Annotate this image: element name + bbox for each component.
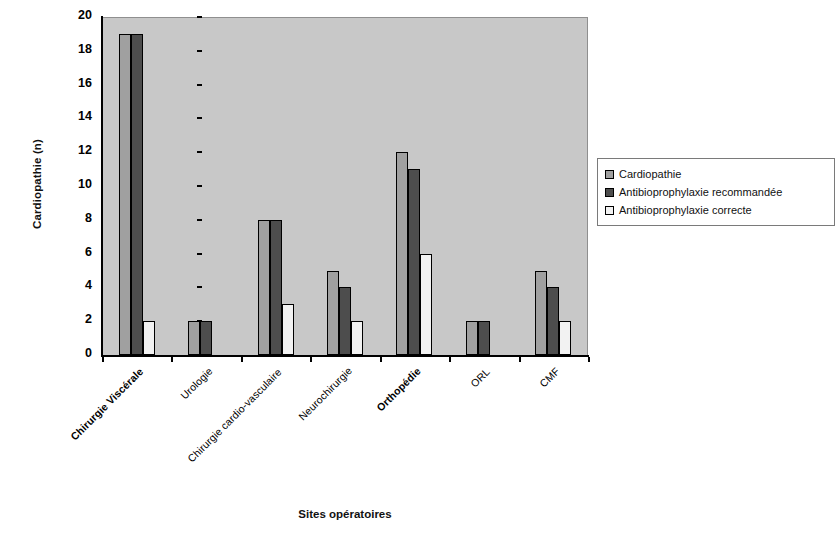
bar [200,321,212,355]
bar [535,271,547,356]
bar [143,321,155,355]
y-tick-label: 10 [78,177,92,191]
bar [396,152,408,355]
y-tick-label: 18 [78,42,92,56]
bar [131,34,143,355]
bar [188,321,200,355]
x-axis-tick [588,357,590,362]
x-axis-tick [380,357,382,362]
y-tick-label: 20 [78,8,92,22]
y-tick-label: 8 [85,211,92,225]
x-axis-line [101,355,589,357]
bar [339,287,351,355]
y-tick-label: 14 [78,109,92,123]
x-axis-title: Sites opératoires [102,508,588,520]
x-axis-tick [519,357,521,362]
x-axis-tick [310,357,312,362]
bar [258,220,270,355]
x-axis-tick [171,357,173,362]
x-axis-category-label: Chirurgie cardio-vasculaire [185,365,284,464]
bar [270,220,282,355]
y-tick-label: 2 [85,312,92,326]
bar [559,321,571,355]
x-axis-category-label: Urologie [178,365,215,402]
legend-item: Antibioprophylaxie correcte [605,201,830,219]
y-tick-label: 6 [85,245,92,259]
bars-layer [102,17,588,355]
legend-item: Cardiopathie [605,165,830,183]
x-axis-tick [241,357,243,362]
x-axis-tick [449,357,451,362]
x-axis-category-label: Neurochirurgie [296,365,354,423]
bar [478,321,490,355]
x-axis-category-label: CMF [537,365,562,390]
legend-item-label: Antibioprophylaxie recommandée [619,186,782,198]
y-tick-label: 12 [78,143,92,157]
legend-swatch-icon [605,170,614,179]
bar [119,34,131,355]
x-axis-category-label: Chirurgie Viscérale [68,365,145,442]
x-axis-tick [102,357,104,362]
bar [327,271,339,356]
legend-item-label: Antibioprophylaxie correcte [619,204,752,216]
chart-legend: Cardiopathie Antibioprophylaxie recomman… [597,158,835,226]
legend-swatch-icon [605,188,614,197]
bar [351,321,363,355]
bar [466,321,478,355]
legend-swatch-icon [605,206,614,215]
y-tick-label: 4 [85,278,92,292]
legend-item: Antibioprophylaxie recommandée [605,183,830,201]
x-axis-category-label: ORL [468,365,492,389]
x-axis-category-label: Orthopédie [374,365,423,414]
y-axis-ticks: 02468101214161820 [0,0,101,357]
bar [408,169,420,355]
bar [420,254,432,355]
y-tick-label: 16 [78,76,92,90]
bar [547,287,559,355]
y-tick-label: 0 [85,346,92,360]
legend-item-label: Cardiopathie [619,168,681,180]
bar [282,304,294,355]
